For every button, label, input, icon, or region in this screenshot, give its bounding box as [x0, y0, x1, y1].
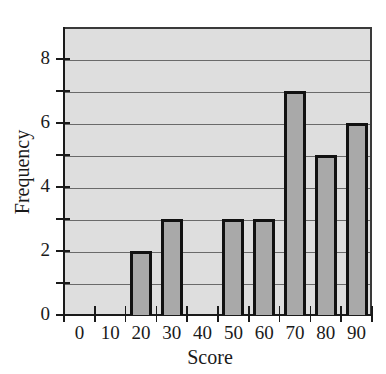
y-tick: [56, 90, 70, 92]
x-tick: [310, 306, 312, 322]
x-tick: [186, 306, 188, 322]
y-axis-line: [63, 27, 65, 316]
y-tick: [56, 122, 70, 124]
x-tick-label: 80: [311, 322, 341, 344]
y-tick: [56, 282, 70, 284]
y-axis-title: Frequency: [10, 112, 34, 232]
y-tick: [56, 186, 70, 188]
x-tick: [340, 306, 342, 322]
x-tick: [279, 306, 281, 322]
bar-30: [161, 219, 183, 315]
y-tick-label: 6: [36, 112, 50, 132]
gridline: [64, 124, 370, 125]
x-tick-label: 50: [218, 322, 248, 344]
x-tick-label: 10: [95, 322, 125, 344]
x-tick-label: 40: [188, 322, 218, 344]
bar-90: [346, 123, 368, 315]
x-tick-label: 90: [342, 322, 372, 344]
y-tick-label: 2: [36, 240, 50, 260]
bar-50: [222, 219, 244, 315]
bar-70: [284, 91, 306, 315]
histogram-chart: 02468 0102030405060708090 Score Frequenc…: [0, 0, 386, 374]
x-tick: [248, 306, 250, 322]
x-tick-label: 70: [280, 322, 310, 344]
bar-80: [315, 155, 337, 315]
y-tick: [56, 218, 70, 220]
y-tick: [56, 154, 70, 156]
y-tick-label: 8: [36, 48, 50, 68]
gridline: [64, 92, 370, 93]
y-tick: [56, 250, 70, 252]
x-tick-label: 20: [126, 322, 156, 344]
x-tick: [63, 306, 65, 322]
y-tick-label: 0: [36, 304, 50, 324]
y-tick: [56, 58, 70, 60]
x-tick: [156, 306, 158, 322]
x-tick: [217, 306, 219, 322]
x-tick: [94, 306, 96, 322]
x-tick-label: 60: [249, 322, 279, 344]
gridline: [64, 60, 370, 61]
x-tick-label: 30: [157, 322, 187, 344]
x-tick-label: 0: [64, 322, 94, 344]
bar-60: [253, 219, 275, 315]
x-axis-title: Score: [150, 345, 270, 369]
x-tick: [125, 306, 127, 322]
bar-20: [130, 251, 152, 315]
y-tick-label: 4: [36, 176, 50, 196]
x-tick: [371, 306, 373, 322]
